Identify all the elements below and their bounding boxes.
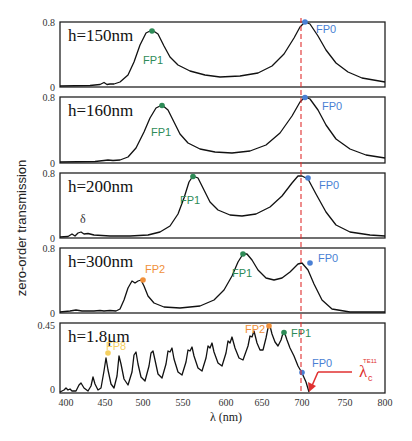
lambda-c-symbol: λ [359,362,368,381]
panel-label: h=160nm [68,101,133,120]
delta-annotation: δ [80,212,86,226]
fp0-label: FP0 [316,23,336,35]
y-tick-top: 0.45 [38,320,56,331]
fp1-marker [159,103,165,109]
fp0-label: FP0 [322,100,342,112]
arrow-head-icon [308,382,316,392]
y-tick-zero: 0 [50,308,55,319]
fp0-marker [305,175,311,181]
y-tick-top: 0.8 [43,243,56,254]
x-tick: 700 [295,397,310,408]
x-tick: 550 [176,397,191,408]
panel-h1800: 0.45 0 h=1.8μm FP8 FP2 FP1 FP0 λ c TE11 [38,320,386,395]
fp0-marker [307,260,313,266]
fp0-marker [302,19,308,25]
x-tick: 400 [59,397,74,408]
fp1-label: FP1 [143,54,163,66]
fp1-label: FP1 [232,267,252,279]
x-axis-ticks: 400 450 500 550 600 650 700 750 800 [59,397,393,408]
x-tick: 650 [255,397,270,408]
fp1-marker [149,28,155,34]
x-tick: 600 [219,397,234,408]
fp2-label: FP2 [145,263,165,275]
panel-h300: 0.8 0 h=300nm FP2 FP1 FP0 [43,243,386,319]
x-tick: 500 [136,397,151,408]
fp1-label: FP1 [180,194,200,206]
fp1-marker [240,251,246,257]
fp2-marker [266,323,272,329]
y-tick-top: 0.8 [43,17,56,28]
x-tick: 450 [98,397,113,408]
y-tick-top: 0.8 [43,92,56,103]
panel-label: h=300nm [68,252,133,271]
fp0-label: FP0 [319,179,339,191]
fp1-label: FP1 [151,126,171,138]
panel-h200: 0.8 0 h=200nm δ FP1 FP0 [43,168,386,244]
x-tick: 750 [338,397,353,408]
figure: zero-order transmission 0.8 0 h=150nm FP… [0,0,412,441]
fp0-marker [299,370,305,376]
lambda-c-superscript: TE11 [363,358,378,364]
lambda-c-subscript: c [368,373,373,383]
fp0-label: FP0 [312,357,332,369]
fp8-label: FP8 [106,340,126,352]
fp2-marker [140,277,146,283]
y-tick-top: 0.8 [43,168,56,179]
fp0-label: FP0 [318,252,338,264]
panel-label: h=150nm [68,26,133,45]
y-axis-title: zero-order transmission [14,160,29,297]
fp1-marker [190,174,196,180]
fp0-marker [302,95,308,101]
panel-h160: 0.8 0 h=160nm FP1 FP0 [43,92,386,169]
x-tick: 800 [378,397,393,408]
y-tick-zero: 0 [50,384,55,395]
fp1-marker [281,330,287,336]
x-axis-title: λ (nm) [210,410,242,424]
fp2-label: FP2 [245,323,265,335]
panel-h150: 0.8 0 h=150nm FP1 FP0 [43,17,386,93]
panel-label: h=200nm [68,177,133,196]
